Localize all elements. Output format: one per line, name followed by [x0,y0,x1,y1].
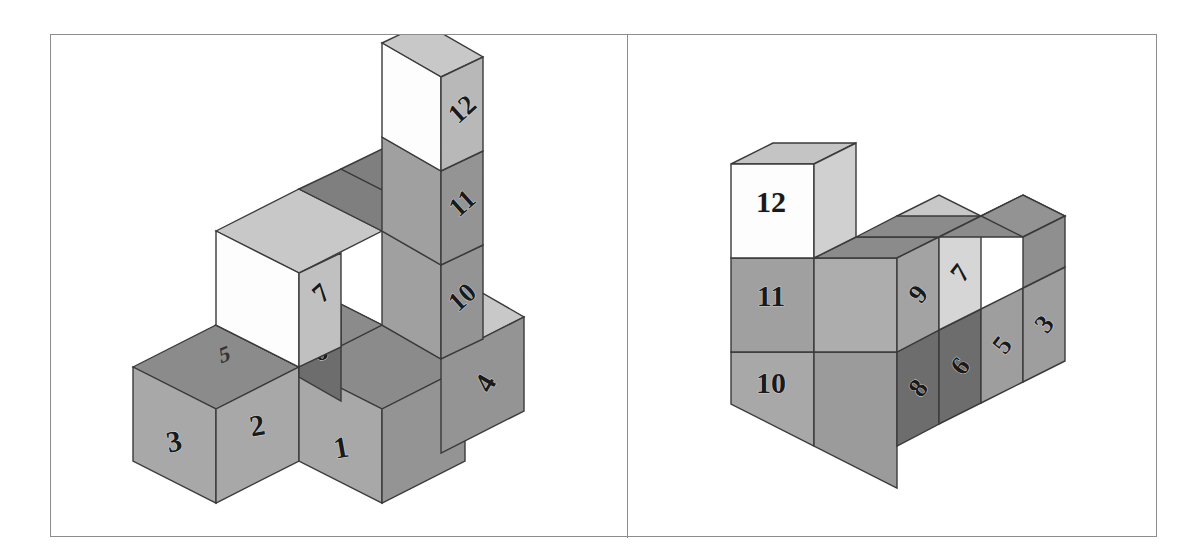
r-cube-10-label: 10 [756,366,786,399]
r-bottom-mid-front [814,352,897,488]
r-cube-11: 11 [731,258,814,352]
r-cube-12-side [814,143,856,258]
r-cube-10: 10 [731,352,814,446]
r-cube-12-label: 12 [756,185,786,218]
r-layer2-mid-front [814,258,897,352]
panel-left: 3 2 1 4 [51,35,627,538]
panel-right: 10 8 6 5 [628,35,1158,538]
cube-7-side [299,253,341,367]
r-cube-5: 5 [981,288,1023,403]
r-cube-11-label: 11 [757,279,785,312]
right-structure-svg: 10 8 6 5 [628,35,1158,538]
left-structure-svg: 3 2 1 4 [51,35,627,538]
figure-frame: 3 2 1 4 [50,34,1157,537]
r-cube-12: 12 [731,143,856,258]
figure-page: 3 2 1 4 [0,0,1197,557]
r-bottom-mid [814,352,897,488]
